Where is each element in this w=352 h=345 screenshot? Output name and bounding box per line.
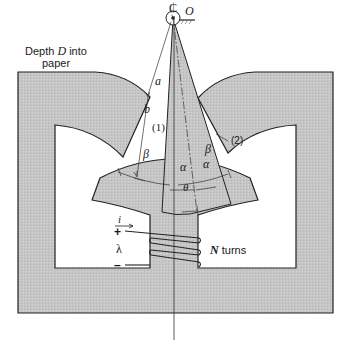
depth-label: Depth D into: [25, 45, 87, 57]
gap2-label: (2): [231, 136, 243, 146]
alpha-right-label: α: [203, 158, 209, 170]
alpha-left-label: α: [180, 161, 186, 173]
centerline-label: ₵: [169, 2, 177, 14]
turns-label: N turns: [210, 244, 246, 256]
beta-right-label: β: [205, 143, 211, 155]
pivot-label: O: [185, 5, 194, 17]
gap1-label: (1): [152, 122, 165, 133]
beta-left-label: β: [143, 148, 149, 160]
flux-linkage-label: λ: [116, 243, 122, 255]
current-label: i: [118, 214, 121, 225]
theta-label: θ: [183, 182, 188, 193]
dim-b-label: b: [144, 103, 150, 115]
plus-terminal: +: [114, 226, 121, 238]
minus-terminal: –: [114, 259, 121, 271]
depth-label-line2: paper: [42, 58, 70, 69]
dim-a-label: a: [155, 75, 161, 87]
